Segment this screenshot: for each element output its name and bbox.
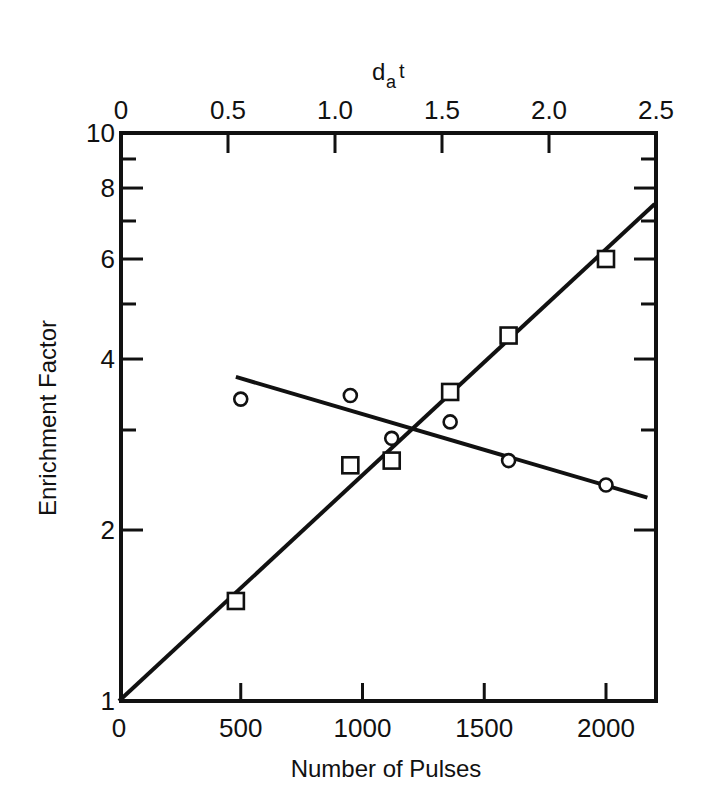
square-marker bbox=[442, 384, 458, 400]
x2-tick-label: 0.5 bbox=[210, 95, 246, 125]
circle-marker bbox=[502, 454, 515, 467]
square-marker bbox=[342, 457, 358, 473]
x2-tick-label: 2.0 bbox=[531, 95, 567, 125]
y-tick-label: 10 bbox=[86, 118, 115, 148]
chart: 050010001500200000.51.01.52.02.51246810 … bbox=[0, 0, 707, 812]
x2-tick-label: 2.5 bbox=[638, 95, 674, 125]
y-tick-label: 1 bbox=[101, 686, 115, 716]
y-tick-label: 6 bbox=[101, 244, 115, 274]
x-tick-label: 2000 bbox=[577, 713, 635, 743]
square-marker bbox=[228, 593, 244, 609]
x2-tick-label: 0 bbox=[114, 95, 128, 125]
x-tick-label: 1000 bbox=[334, 713, 392, 743]
circle-marker bbox=[385, 432, 398, 445]
y-tick-label: 8 bbox=[101, 173, 115, 203]
square-marker bbox=[598, 251, 614, 267]
axis-ticks bbox=[121, 133, 656, 701]
top-axis-label: d a t bbox=[372, 58, 405, 92]
x-tick-label: 1500 bbox=[455, 713, 513, 743]
x-tick-label: 500 bbox=[219, 713, 262, 743]
plot-border bbox=[121, 133, 656, 701]
circle-marker bbox=[234, 393, 247, 406]
square-marker bbox=[384, 453, 400, 469]
x2-tick-label: 1.0 bbox=[317, 95, 353, 125]
top-axis-label-sub: a bbox=[386, 72, 397, 92]
circle-marker bbox=[344, 389, 357, 402]
y-tick-label: 4 bbox=[101, 344, 115, 374]
x-tick-label: 0 bbox=[112, 713, 126, 743]
x-axis-label: Number of Pulses bbox=[291, 755, 482, 782]
y-tick-label: 2 bbox=[101, 515, 115, 545]
y-axis-label: Enrichment Factor bbox=[34, 320, 61, 516]
circle-marker bbox=[444, 415, 457, 428]
square-marker bbox=[501, 328, 517, 344]
plot-frame bbox=[121, 133, 656, 701]
top-axis-label-main: d bbox=[372, 58, 385, 85]
circle-marker bbox=[600, 479, 613, 492]
x2-tick-label: 1.5 bbox=[424, 95, 460, 125]
top-axis-label-tail: t bbox=[399, 60, 405, 82]
